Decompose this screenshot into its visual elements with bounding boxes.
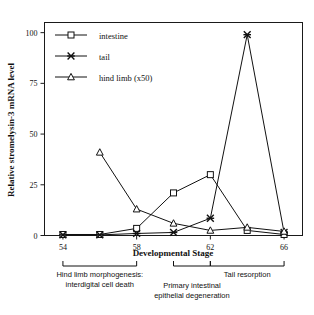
legend-label: intestine (99, 31, 128, 41)
hind-limb-bracket: Hind limb morphogenesis:interdigital cel… (56, 261, 143, 289)
series-hind-limb-x50- (96, 149, 287, 235)
intestine-bracket: Primary intestinalepithelial degeneratio… (154, 261, 229, 300)
tail-bracket: Tail resorption (210, 261, 284, 279)
y-tick-label: 75 (30, 79, 38, 88)
data-series-layer (59, 31, 288, 238)
x-tick-label: 66 (280, 243, 288, 252)
legend-marker (68, 32, 74, 38)
y-tick-label: 0 (34, 232, 38, 241)
data-point (207, 172, 213, 178)
bracket-shape (210, 261, 284, 266)
stromelysin-line-chart: 0255075100 54586266 Relative stromelysin… (0, 0, 314, 315)
series-tail (59, 31, 288, 238)
y-tick-label: 25 (30, 181, 38, 190)
y-tick-label: 100 (26, 29, 38, 38)
bracket-shape (63, 261, 137, 266)
series-path (63, 35, 284, 235)
annotation-text: epithelial degeneration (154, 291, 229, 300)
y-axis-ticks: 0255075100 (26, 29, 45, 241)
figure-container: 0255075100 54586266 Relative stromelysin… (0, 0, 314, 315)
data-point (96, 149, 103, 155)
bracket-shape (174, 261, 211, 266)
y-tick-label: 50 (30, 130, 38, 139)
data-point (170, 229, 178, 236)
annotation-brackets: Hind limb morphogenesis:interdigital cel… (56, 261, 284, 300)
annotation-text: interdigital cell death (66, 280, 134, 289)
chart-legend: intestinetailhind limb (x50) (55, 31, 153, 83)
y-axis-title: Relative stromelysin-3 mRNA level (6, 62, 16, 197)
legend-marker (67, 53, 75, 60)
x-tick-label: 54 (59, 243, 67, 252)
plot-frame (45, 23, 303, 236)
legend-label: tail (99, 52, 110, 62)
annotation-text: Hind limb morphogenesis: (56, 270, 143, 279)
data-point (171, 190, 177, 196)
series-path (100, 152, 284, 231)
annotation-text: Primary intestinal (163, 281, 221, 290)
data-point (133, 206, 140, 212)
x-axis-title: Developmental Stage (133, 248, 214, 258)
legend-label: hind limb (x50) (99, 73, 153, 83)
annotation-text: Tail resorption (224, 270, 271, 279)
